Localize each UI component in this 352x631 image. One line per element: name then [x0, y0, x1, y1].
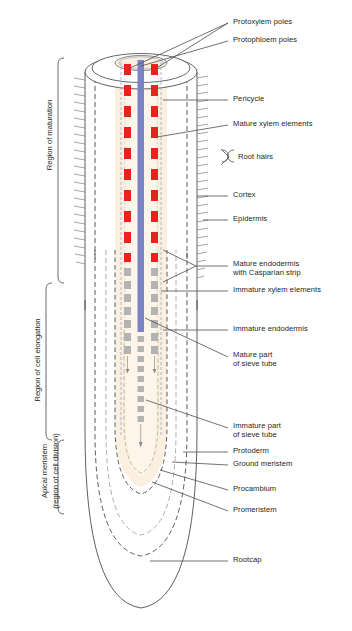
xylem-block — [151, 253, 158, 262]
callout-procambium: Procambium — [233, 484, 276, 493]
xylem-block — [151, 211, 158, 222]
sieve-block-immature — [138, 376, 145, 382]
xylem-block — [151, 85, 158, 96]
xylem-block-immature — [151, 346, 158, 354]
sieve-block-immature — [138, 346, 145, 352]
xylem-block-immature — [151, 268, 158, 276]
region-label-region-of-cell-elongation: Region of cell elongation — [33, 285, 42, 435]
xylem-block — [124, 169, 131, 180]
xylem-block — [151, 232, 158, 243]
callout-protoderm: Protoderm — [233, 446, 269, 455]
sieve-block-immature — [138, 336, 145, 342]
callout-immature-sieve-2: of sieve tube — [233, 430, 277, 439]
callout-protophloem-poles: Protophloem poles — [233, 35, 297, 44]
region-label-apical-meristem-sub: (region of cell division) — [51, 432, 60, 510]
root-hairs-right — [197, 76, 208, 278]
xylem-block — [124, 232, 131, 243]
region-label-region-of-maturation: Region of maturation — [45, 25, 54, 245]
callout-mature-sieve-2: of sieve tube — [233, 359, 277, 368]
sieve-block-immature — [138, 396, 145, 402]
callout-pericycle: Pericycle — [233, 94, 264, 103]
xylem-block-immature — [151, 294, 158, 302]
xylem-block-immature — [151, 307, 158, 315]
xylem-block-immature — [124, 346, 131, 354]
callout-protoxylem-poles: Protoxylem poles — [233, 17, 292, 26]
xylem-block — [151, 169, 158, 180]
xylem-block-immature — [124, 333, 131, 341]
sieve-tube-mature — [138, 60, 145, 332]
xylem-block — [151, 64, 158, 75]
callout-immature-endodermis: Immature endodermis — [233, 324, 308, 333]
sieve-tube-immature — [138, 336, 145, 422]
sieve-block-immature — [138, 416, 145, 422]
xylem-block — [124, 85, 131, 96]
xylem-block — [124, 64, 131, 75]
leader-ground-meristem — [172, 462, 228, 465]
callout-promeristem: Promeristem — [233, 505, 277, 514]
xylem-block — [124, 148, 131, 159]
callout-mature-endodermis-2: with Casparian strip — [233, 268, 301, 277]
callout-ground-meristem: Ground meristem — [233, 459, 292, 468]
xylem-block — [124, 127, 131, 138]
sieve-block-immature — [138, 406, 145, 412]
xylem-block — [151, 106, 158, 117]
xylem-block-immature — [124, 268, 131, 276]
callout-root-hairs: Root hairs — [238, 152, 273, 161]
callout-immature-sieve-1: Immature part — [233, 421, 281, 430]
sieve-block-immature — [138, 356, 145, 362]
xylem-block — [151, 190, 158, 201]
xylem-block-immature — [151, 333, 158, 341]
sieve-block-immature — [138, 386, 145, 392]
xylem-block-immature — [151, 281, 158, 289]
callout-cortex: Cortex — [233, 190, 256, 199]
callout-mature-endodermis-1: Mature endodermis — [233, 259, 299, 268]
xylem-block-immature — [124, 294, 131, 302]
xylem-block — [124, 253, 131, 262]
leader-protoxylem-b — [155, 23, 228, 69]
xylem-block — [151, 127, 158, 138]
xylem-block — [151, 148, 158, 159]
xylem-block-immature — [124, 320, 131, 328]
root-hairs-left — [74, 78, 85, 264]
bracket-region-of-cell-elongation — [46, 283, 52, 440]
callout-rootcap: Rootcap — [233, 555, 262, 564]
callout-immature-xylem-elements: Immature xylem elements — [233, 285, 321, 294]
callout-mature-sieve-1: Mature part — [233, 350, 272, 359]
sieve-tube — [138, 60, 145, 448]
bracket-region-of-maturation — [58, 58, 64, 283]
callout-mature-xylem-elements: Mature xylem elements — [233, 119, 313, 128]
xylem-block — [124, 190, 131, 201]
region-label-apical-meristem: Apical meristem — [40, 432, 49, 510]
xylem-block — [124, 211, 131, 222]
sieve-block-immature — [138, 366, 145, 372]
callout-epidermis: Epidermis — [233, 214, 267, 223]
xylem-block — [124, 106, 131, 117]
xylem-block-immature — [124, 307, 131, 315]
xylem-block-immature — [124, 281, 131, 289]
